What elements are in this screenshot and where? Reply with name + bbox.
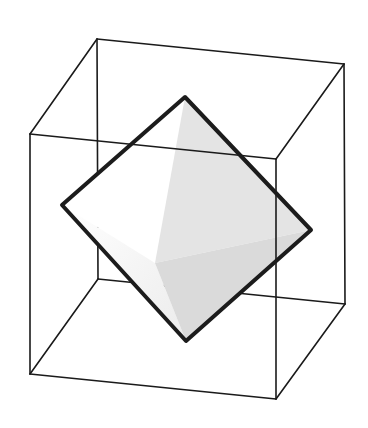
octahedron-faces bbox=[62, 97, 311, 341]
cube-edge bbox=[30, 279, 98, 374]
cube-edge bbox=[30, 374, 276, 399]
octahedron-in-cube-illustration bbox=[0, 0, 368, 428]
cube-edge bbox=[276, 304, 345, 399]
figure-canvas bbox=[0, 0, 368, 428]
cube-edge bbox=[97, 39, 344, 64]
cube-edge bbox=[276, 64, 344, 159]
cube-edge bbox=[344, 64, 345, 304]
cube-edge bbox=[30, 39, 97, 134]
